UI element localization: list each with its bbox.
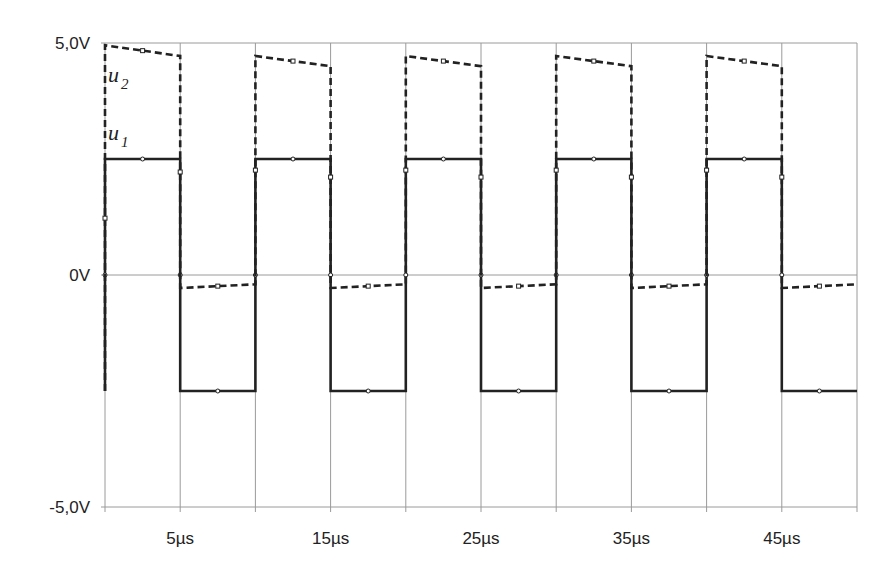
marker <box>404 168 408 172</box>
marker <box>329 175 333 179</box>
series-group <box>103 45 857 393</box>
y-tick-label: 5,0V <box>55 34 91 53</box>
marker <box>404 273 408 277</box>
grid <box>101 43 857 512</box>
marker <box>554 168 558 172</box>
marker <box>667 389 671 393</box>
x-tick-label: 15µs <box>312 529 349 548</box>
marker <box>817 389 821 393</box>
series-labels: u2 u1 <box>108 62 129 150</box>
marker <box>479 175 483 179</box>
marker <box>592 59 596 63</box>
marker <box>441 157 445 161</box>
y-tick-label: -5,0V <box>49 498 90 517</box>
marker <box>742 59 746 63</box>
marker <box>178 170 182 174</box>
marker <box>216 284 220 288</box>
marker <box>742 157 746 161</box>
marker <box>517 389 521 393</box>
marker <box>441 59 445 63</box>
y-tick-label: 0V <box>69 266 90 285</box>
x-tick-label: 35µs <box>613 529 650 548</box>
x-tick-label: 45µs <box>763 529 800 548</box>
marker <box>366 389 370 393</box>
marker <box>141 49 145 53</box>
marker <box>291 157 295 161</box>
axis-labels: 5,0V0V-5,0V5µs15µs25µs35µs45µs <box>49 34 800 548</box>
marker <box>253 168 257 172</box>
marker <box>629 175 633 179</box>
marker <box>817 284 821 288</box>
marker <box>705 168 709 172</box>
x-tick-label: 25µs <box>462 529 499 548</box>
marker <box>141 157 145 161</box>
marker <box>291 59 295 63</box>
marker <box>103 216 107 220</box>
waveform-chart: 5,0V0V-5,0V5µs15µs25µs35µs45µs u2 u1 <box>0 0 881 582</box>
marker <box>592 157 596 161</box>
marker <box>216 389 220 393</box>
x-tick-label: 5µs <box>166 529 194 548</box>
marker <box>517 284 521 288</box>
marker <box>667 284 671 288</box>
series-label-u1: u1 <box>108 120 129 150</box>
marker <box>366 284 370 288</box>
marker <box>780 175 784 179</box>
series-label-u2: u2 <box>108 62 129 92</box>
